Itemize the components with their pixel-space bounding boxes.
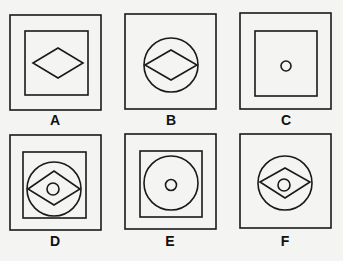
option-a — [10, 15, 101, 110]
option-label-a: A — [45, 112, 65, 128]
inner-square — [255, 31, 317, 96]
option-label-b: B — [161, 112, 181, 128]
option-f — [240, 134, 331, 228]
small-circle — [166, 180, 177, 191]
diamond — [260, 168, 310, 198]
small-circle — [47, 183, 59, 195]
option-label-f: F — [275, 233, 295, 249]
small-circle — [281, 61, 291, 71]
circle — [144, 156, 198, 210]
inner-square — [140, 151, 202, 217]
option-b — [125, 14, 216, 109]
diamond — [33, 48, 83, 78]
option-e — [125, 134, 216, 229]
option-label-d: D — [45, 233, 65, 249]
outer-square — [240, 134, 331, 228]
option-label-e: E — [160, 233, 180, 249]
circle — [144, 38, 198, 92]
small-circle — [278, 179, 290, 191]
option-c — [240, 13, 331, 109]
diamond — [28, 171, 80, 205]
outer-square — [125, 14, 216, 109]
circle — [258, 156, 312, 210]
option-d — [10, 135, 101, 230]
diamond — [145, 50, 197, 80]
figure-options — [0, 0, 343, 261]
option-label-c: C — [276, 112, 296, 128]
